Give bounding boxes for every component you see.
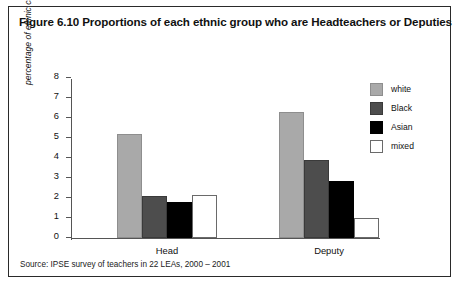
y-axis-tick-label: 8	[39, 70, 59, 83]
source-note: Source: IPSE survey of teachers in 22 LE…	[20, 260, 230, 269]
y-axis-tick-label: 1	[39, 210, 59, 223]
x-axis-label-deputy: Deputy	[257, 245, 401, 256]
y-axis-title-text: percentage of ethnic category	[23, 0, 33, 85]
figure-container: Figure 6.10 Proportions of each ethnic g…	[8, 6, 451, 277]
y-axis-tick: 6	[66, 117, 71, 118]
legend-label-asian: Asian	[391, 122, 413, 132]
legend-swatch-mixed-icon	[370, 140, 383, 153]
bar-black-deputy	[304, 160, 329, 238]
y-axis-tick: 1	[66, 217, 71, 218]
bar-asian-deputy	[329, 181, 354, 238]
y-axis-tick: 0	[66, 237, 71, 238]
bar-white-deputy	[279, 112, 304, 238]
y-axis-tick: 4	[66, 157, 71, 158]
legend-label-mixed: mixed	[391, 141, 414, 151]
y-axis-tick: 7	[66, 97, 71, 98]
legend-swatch-black-icon	[370, 102, 383, 115]
bar-mixed-head	[192, 195, 217, 238]
y-axis-title: percentage of ethnic category	[23, 0, 33, 85]
legend-label-black: Black	[391, 103, 412, 113]
legend: whiteBlackAsianmixed	[370, 80, 450, 156]
legend-swatch-white-icon	[370, 83, 383, 96]
x-axis-label-head: Head	[95, 245, 239, 256]
x-axis-line	[71, 238, 380, 239]
y-axis-tick-label: 7	[39, 90, 59, 103]
y-axis-tick-label: 0	[39, 230, 59, 243]
bar-white-head	[117, 134, 142, 238]
y-axis-tick: 8	[66, 77, 71, 78]
y-axis-tick: 3	[66, 177, 71, 178]
y-axis-tick-label: 2	[39, 190, 59, 203]
legend-label-white: white	[391, 84, 411, 94]
figure-title: Figure 6.10 Proportions of each ethnic g…	[19, 15, 442, 29]
bar-black-head	[142, 196, 167, 238]
legend-item-white: white	[370, 80, 450, 98]
bar-asian-head	[167, 202, 192, 238]
y-axis-line	[71, 79, 72, 240]
legend-item-black: Black	[370, 99, 450, 117]
legend-item-mixed: mixed	[370, 137, 450, 155]
y-axis-tick-label: 6	[39, 110, 59, 123]
y-axis-tick-label: 3	[39, 170, 59, 183]
y-axis-tick-label: 5	[39, 130, 59, 143]
legend-swatch-asian-icon	[370, 121, 383, 134]
bar-mixed-deputy	[354, 218, 379, 238]
legend-item-asian: Asian	[370, 118, 450, 136]
y-axis-tick-label: 4	[39, 150, 59, 163]
y-axis-tick: 2	[66, 197, 71, 198]
plot-area: 012345678 HeadDeputy	[71, 79, 379, 239]
y-axis-tick: 5	[66, 137, 71, 138]
